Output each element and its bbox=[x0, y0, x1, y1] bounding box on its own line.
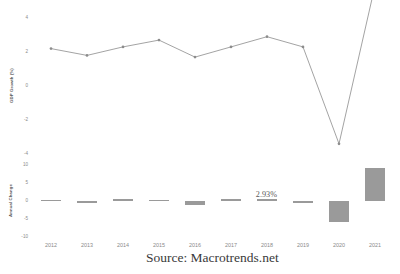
bar bbox=[185, 201, 205, 205]
top-chart-plot-area bbox=[33, 18, 393, 154]
line-data-point bbox=[86, 54, 89, 57]
line-data-point bbox=[50, 47, 53, 50]
top-y-tick-label: -4 bbox=[14, 151, 28, 156]
gdp-growth-figure: GDP Growth (%) 4 2 0 -2 -4 Annual Change… bbox=[0, 0, 400, 274]
line-data-point bbox=[194, 56, 197, 59]
top-y-tick-label: 0 bbox=[14, 83, 28, 88]
bar-value-annotation: 2.93% bbox=[227, 190, 277, 199]
bottom-y-tick-label: 0 bbox=[12, 198, 28, 203]
x-axis-tick-label: 2018 bbox=[251, 242, 283, 248]
x-axis-tick-label: 2019 bbox=[287, 242, 319, 248]
bar bbox=[293, 201, 313, 203]
gdp-growth-line-series bbox=[33, 18, 393, 154]
bar bbox=[113, 199, 133, 201]
line-data-point bbox=[230, 46, 233, 49]
line-series-markers bbox=[50, 0, 377, 145]
bar bbox=[149, 200, 169, 202]
x-axis-tick-label: 2017 bbox=[215, 242, 247, 248]
line-data-point bbox=[122, 46, 125, 49]
x-axis-tick-label: 2015 bbox=[143, 242, 175, 248]
bar bbox=[329, 201, 349, 222]
bottom-y-tick-label: -5 bbox=[12, 216, 28, 221]
line-data-point bbox=[266, 35, 269, 38]
top-chart-y-axis-label: GDP Growth (%) bbox=[9, 51, 14, 121]
bottom-y-tick-label: -10 bbox=[12, 234, 28, 239]
line-data-point bbox=[338, 142, 341, 145]
bar bbox=[257, 199, 277, 201]
x-axis-tick-label: 2012 bbox=[35, 242, 67, 248]
x-axis-tick-label: 2013 bbox=[71, 242, 103, 248]
bar bbox=[77, 201, 97, 203]
line-data-point bbox=[302, 46, 305, 49]
bottom-y-tick-label: 10 bbox=[12, 162, 28, 167]
top-y-tick-label: 2 bbox=[14, 49, 28, 54]
annual-change-bar-panel: Annual Change 10 5 0 -5 -10 201220132014… bbox=[0, 160, 400, 252]
line-series-path bbox=[51, 0, 375, 144]
x-axis-tick-label: 2021 bbox=[359, 242, 391, 248]
line-data-point bbox=[158, 39, 161, 42]
top-y-tick-label: 4 bbox=[14, 15, 28, 20]
bar bbox=[365, 168, 385, 201]
top-y-tick-label: -2 bbox=[14, 117, 28, 122]
bottom-y-tick-label: 5 bbox=[12, 180, 28, 185]
bar bbox=[221, 199, 241, 201]
source-caption: Source: Macrotrends.net bbox=[146, 250, 279, 266]
bottom-chart-plot-area bbox=[33, 165, 393, 237]
gdp-growth-line-panel: GDP Growth (%) 4 2 0 -2 -4 bbox=[0, 0, 400, 160]
x-axis-tick-label: 2014 bbox=[107, 242, 139, 248]
x-axis-tick-label: 2020 bbox=[323, 242, 355, 248]
bar bbox=[41, 200, 61, 202]
x-axis-tick-label: 2016 bbox=[179, 242, 211, 248]
